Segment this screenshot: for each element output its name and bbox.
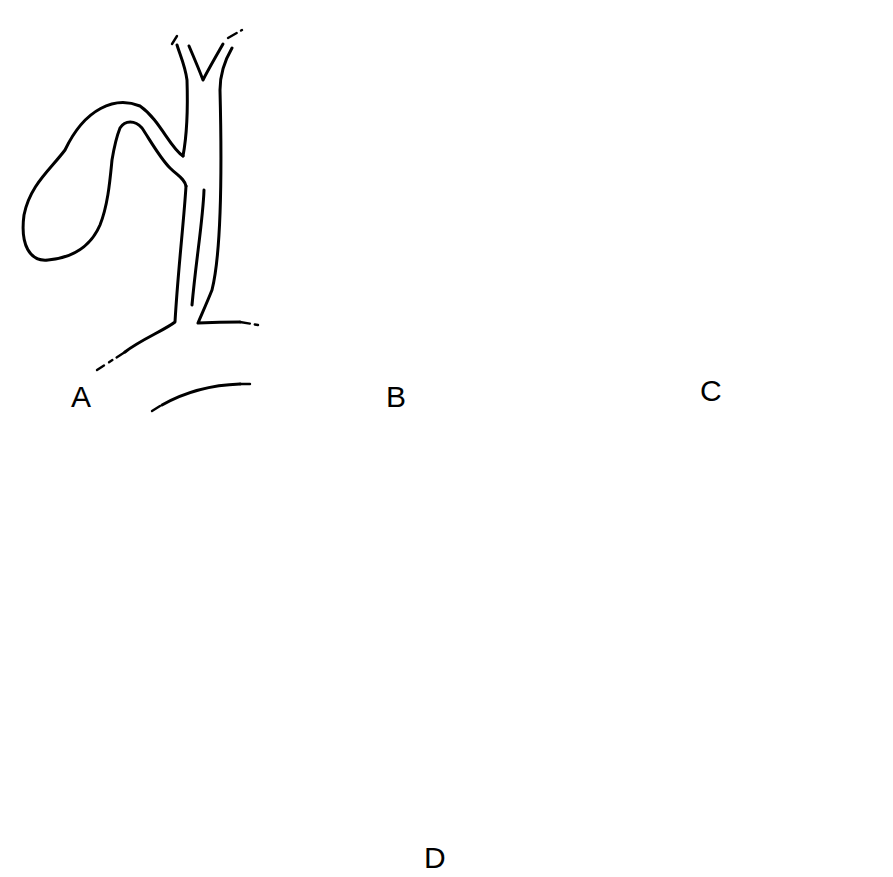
panel-label-c: C — [700, 376, 722, 406]
panel-label-d: D — [424, 843, 446, 873]
panel-label-a: A — [71, 382, 91, 412]
panel-label-b: B — [386, 382, 406, 412]
biliary-diagram — [0, 0, 893, 877]
panel-a — [23, 30, 258, 411]
